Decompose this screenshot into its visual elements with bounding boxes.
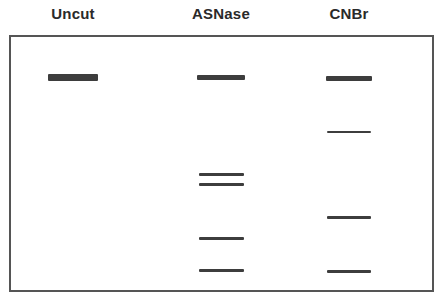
band-asnase-1: [197, 75, 245, 80]
band-cnbr-3: [327, 216, 371, 219]
band-asnase-3: [199, 183, 244, 186]
band-asnase-5: [199, 269, 244, 272]
band-asnase-4: [199, 237, 244, 240]
lane-label-cnbr: CNBr: [299, 5, 399, 22]
band-cnbr-4: [327, 270, 371, 273]
lane-label-uncut: Uncut: [23, 5, 123, 22]
band-cnbr-2: [327, 131, 371, 133]
band-uncut-1: [48, 74, 98, 81]
band-asnase-2: [199, 173, 244, 176]
lane-label-asnase: ASNase: [171, 5, 271, 22]
band-cnbr-1: [326, 76, 372, 81]
